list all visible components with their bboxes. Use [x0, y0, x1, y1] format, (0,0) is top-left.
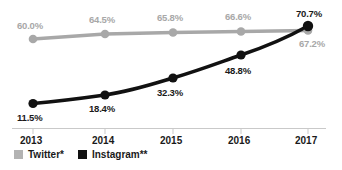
legend-item-twitter[interactable]: Twitter* [14, 149, 64, 160]
x-axis-label-2015: 2015 [160, 135, 182, 146]
x-axis-label-2013: 2013 [20, 135, 42, 146]
data-label-twitter-2017: 67.2% [299, 38, 325, 49]
data-label-twitter-2013: 60.0% [17, 20, 43, 31]
x-axis-ticks [33, 129, 308, 135]
data-label-instagram-2017: 70.7% [296, 8, 322, 19]
legend-label-twitter: Twitter* [28, 149, 64, 160]
gray-square-icon [14, 150, 23, 159]
data-label-instagram-2015: 32.3% [157, 87, 183, 98]
black-square-icon [78, 150, 87, 159]
data-label-instagram-2013: 11.5% [17, 112, 42, 123]
x-axis-label-2014: 2014 [92, 135, 114, 146]
data-label-instagram-2014: 18.4% [89, 103, 115, 114]
data-label-twitter-2016: 66.6% [225, 11, 251, 22]
legend-item-instagram[interactable]: Instagram** [78, 149, 148, 160]
legend-label-instagram: Instagram** [92, 149, 148, 160]
x-axis-label-2016: 2016 [228, 135, 250, 146]
data-label-twitter-2015: 65.8% [157, 12, 183, 23]
chart-legend: Twitter* Instagram** [14, 149, 148, 160]
data-label-twitter-2014: 64.5% [89, 14, 115, 25]
data-label-instagram-2016: 48.8% [225, 65, 251, 76]
x-axis-label-2017: 2017 [295, 135, 317, 146]
line-chart: 60.0% 64.5% 65.8% 66.6% 67.2% 11.5% 18.4… [0, 0, 342, 170]
